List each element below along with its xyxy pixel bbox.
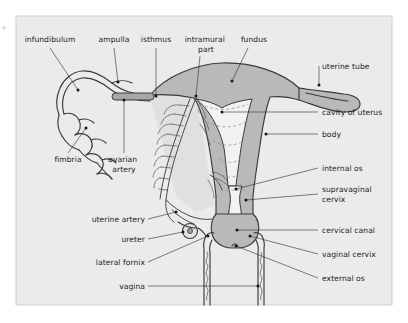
label-ureter: ureter xyxy=(121,235,145,244)
label-external-os: external os xyxy=(322,274,365,283)
label-ampulla: ampulla xyxy=(99,35,130,44)
label-internal-os: internal os xyxy=(322,164,363,173)
label-body: body xyxy=(322,130,341,139)
label-fimbria: fimbria xyxy=(54,155,81,164)
anatomy-figure: infundibulum ampulla isthmus intramural … xyxy=(0,0,408,323)
anatomy-diagram-svg: infundibulum ampulla isthmus intramural … xyxy=(0,0,408,323)
label-vagina: vagina xyxy=(119,282,145,291)
vaginal-cervix xyxy=(211,214,259,248)
label-fundus: fundus xyxy=(241,35,267,44)
label-cervical-canal: cervical canal xyxy=(322,226,375,235)
label-infundibulum: infundibulum xyxy=(25,35,76,44)
edge-artifact-mark xyxy=(2,26,7,31)
ovarian-artery xyxy=(112,93,154,100)
label-isthmus: isthmus xyxy=(141,35,171,44)
label-uterine-tube: uterine tube xyxy=(322,62,370,71)
label-lateral-fornix: lateral fornix xyxy=(96,258,146,267)
label-cavity-of-uterus: cavity of uterus xyxy=(322,108,382,117)
label-uterine-artery: uterine artery xyxy=(92,215,146,224)
label-ovarian-artery: ovarian artery xyxy=(108,155,139,174)
label-vaginal-cervix: vaginal cervix xyxy=(322,250,376,259)
